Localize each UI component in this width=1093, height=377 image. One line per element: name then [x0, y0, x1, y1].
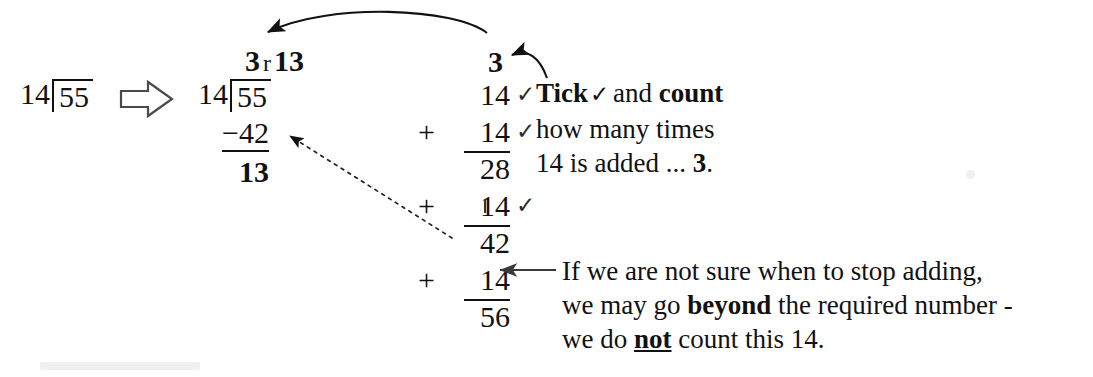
note-line2-c: the required number - — [771, 290, 1012, 320]
tick-icon: ✓ — [516, 76, 535, 113]
addition-column: 14✓+14✓28+14✓42+1456 — [418, 76, 510, 335]
addend-value: 14 — [464, 261, 510, 301]
note-overshoot: If we are not sure when to stop adding, … — [562, 254, 1013, 356]
plus-sign: + — [418, 187, 435, 224]
note-line: we do not count this 14. — [562, 322, 1013, 356]
sum-value: 42 — [464, 224, 510, 261]
note-line3-c: count this 14. — [672, 324, 825, 354]
division-difference: 13 — [239, 157, 269, 187]
diagram-canvas: 14 55 3r13 14 55 −42 13 3 14✓+14✓28+14✓4… — [0, 0, 1093, 377]
note-line2-a: we may go — [562, 290, 687, 320]
note-count-word: count — [659, 78, 724, 108]
original-dividend: 55 — [52, 79, 93, 112]
addition-row: 56 — [418, 298, 510, 335]
long-division-divisor: 14 — [198, 79, 230, 109]
long-division-bracket: 14 55 — [198, 79, 271, 112]
remainder-value: 13 — [274, 44, 304, 77]
addend-value: 14 — [464, 187, 510, 227]
addition-row: +14✓ — [418, 113, 510, 150]
note-line3-period: . — [706, 148, 713, 178]
note-line: 14 is added ... 3. — [536, 146, 723, 180]
note-line: Tick✓and count — [536, 76, 723, 112]
addition-row: +14 — [418, 261, 510, 298]
count-label: 3 — [488, 47, 503, 77]
addition-row: 28 — [418, 150, 510, 187]
quotient-line: 3r13 — [245, 46, 304, 76]
sum-value: 28 — [464, 150, 510, 187]
note-tick-word: Tick — [536, 78, 588, 108]
addend-value: 14 — [464, 113, 510, 153]
quotient-value: 3 — [245, 44, 260, 77]
original-problem: 14 55 — [20, 79, 93, 112]
sum-value: 14 — [464, 76, 510, 113]
hollow-right-arrow-icon — [118, 79, 176, 123]
count-hook-arrow — [512, 53, 547, 78]
note-beyond-word: beyond — [687, 290, 771, 320]
addition-row: 42 — [418, 224, 510, 261]
plus-sign: + — [418, 113, 435, 150]
note-line: how many times — [536, 112, 723, 146]
addition-row: +14✓ — [418, 187, 510, 224]
tick-icon: ✓ — [516, 113, 535, 150]
remainder-marker: r — [260, 50, 274, 76]
note-not-word: not — [634, 324, 672, 354]
subtrahend: −42 — [222, 118, 269, 152]
long-division-dividend: 55 — [230, 79, 271, 112]
note-answer-value: 3 — [693, 148, 707, 178]
note-line3-a: we do — [562, 324, 634, 354]
scan-speck — [966, 170, 975, 179]
note-tick-count: Tick✓and count how many times 14 is adde… — [536, 76, 723, 180]
tick-icon: ✓ — [588, 82, 613, 107]
addition-row: 14✓ — [418, 76, 510, 113]
original-divisor: 14 — [20, 79, 52, 109]
scan-speck — [40, 362, 200, 370]
sum-value: 56 — [464, 298, 510, 335]
note-line3-text: 14 is added ... — [536, 148, 693, 178]
note-line: If we are not sure when to stop adding, — [562, 254, 1013, 288]
tick-icon: ✓ — [516, 187, 535, 224]
stray-pen-mark — [484, 200, 486, 213]
note-and-word: and — [613, 78, 659, 108]
note-line: we may go beyond the required number - — [562, 288, 1013, 322]
plus-sign: + — [418, 261, 435, 298]
quotient-curve-arrow — [268, 12, 487, 33]
